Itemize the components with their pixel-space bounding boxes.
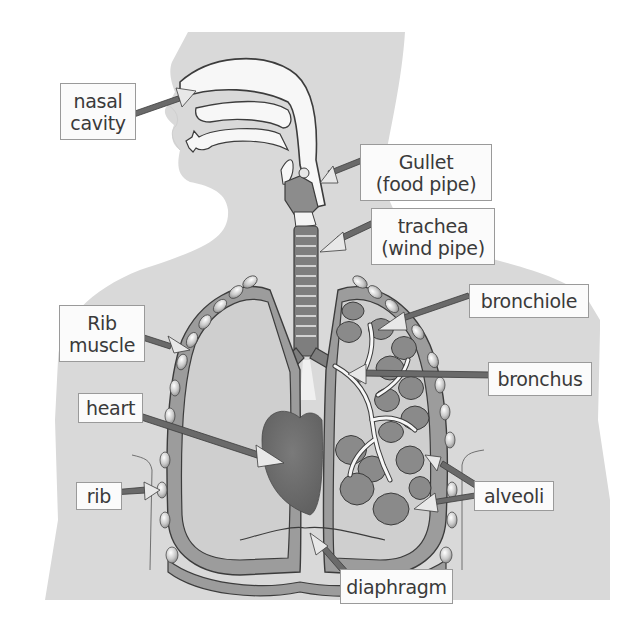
label-alveoli: alveoli	[474, 481, 554, 511]
label-rib: rib	[76, 482, 122, 510]
label-gullet: Gullet (food pipe)	[360, 144, 492, 201]
label-rib-muscle: Rib muscle	[59, 305, 145, 362]
label-bronchiole: bronchiole	[469, 284, 589, 318]
label-text: heart	[86, 397, 135, 419]
label-text: Gullet	[399, 151, 454, 173]
label-text: diaphragm	[346, 576, 446, 598]
label-text: bronchiole	[481, 290, 577, 312]
label-nasal-cavity: nasal cavity	[60, 83, 136, 140]
label-text: cavity	[70, 112, 126, 134]
label-text: alveoli	[484, 485, 544, 507]
label-text: Rib	[87, 312, 117, 334]
label-trachea: trachea (wind pipe)	[371, 208, 495, 265]
label-text: muscle	[69, 334, 135, 356]
label-text: (wind pipe)	[381, 237, 485, 259]
label-text: rib	[87, 485, 111, 507]
label-heart: heart	[78, 393, 143, 423]
respiratory-system-diagram: nasal cavity Gullet (food pipe) trachea …	[0, 0, 626, 637]
label-text: trachea	[398, 215, 469, 237]
label-text: nasal	[73, 90, 122, 112]
label-diaphragm: diaphragm	[340, 569, 453, 604]
label-text: (food pipe)	[376, 173, 477, 195]
label-bronchus: bronchus	[488, 362, 592, 396]
label-text: bronchus	[497, 368, 582, 390]
